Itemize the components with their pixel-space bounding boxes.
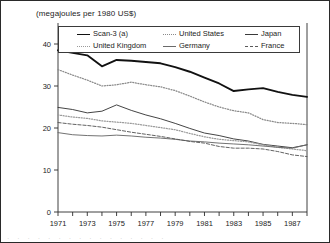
y-tick-label-40: 40	[43, 40, 51, 49]
footer-text: · · · · · · · · · · · · · · · ·	[7, 237, 166, 242]
footer-partial-text: · · · · · · · · · · · · · · · ·	[1, 237, 330, 243]
x-tick-label-1983: 1983	[225, 219, 242, 228]
legend-label: United States	[179, 28, 224, 40]
legend-swatch-icon	[245, 43, 258, 49]
legend-label: France	[261, 40, 284, 52]
legend-label: Germany	[179, 40, 210, 52]
legend-swatch-icon	[245, 31, 258, 37]
y-tick-label-20: 20	[43, 124, 51, 133]
y-tick-label-0: 0	[47, 208, 51, 217]
legend-label: United Kingdom	[93, 40, 146, 52]
chart-legend: Scan-3 (a)United StatesJapan United King…	[58, 26, 300, 53]
x-tick-label-1977: 1977	[138, 219, 155, 228]
legend-swatch-icon	[77, 43, 90, 49]
chart-frame: (megajoules per 1980 US$) 01020304019711…	[0, 0, 330, 243]
legend-item-germany: Germany	[163, 40, 210, 52]
legend-item-france: France	[245, 40, 284, 52]
x-tick-label-1973: 1973	[79, 219, 96, 228]
x-tick-label-1981: 1981	[196, 219, 213, 228]
legend-row-1: Scan-3 (a)United StatesJapan	[59, 28, 301, 40]
x-tick-label-1985: 1985	[255, 219, 272, 228]
x-tick-label-1971: 1971	[50, 219, 67, 228]
legend-swatch-icon	[77, 31, 90, 37]
legend-item-united-kingdom: United Kingdom	[77, 40, 146, 52]
x-tick-label-1987: 1987	[284, 219, 301, 228]
legend-swatch-icon	[163, 43, 176, 49]
legend-item-scan-3-a: Scan-3 (a)	[77, 28, 128, 40]
y-tick-label-10: 10	[43, 166, 51, 175]
x-tick-label-1975: 1975	[108, 219, 125, 228]
legend-item-united-states: United States	[163, 28, 224, 40]
series-line-united-states	[58, 70, 307, 125]
legend-swatch-icon	[163, 31, 176, 37]
legend-label: Japan	[261, 28, 281, 40]
legend-label: Scan-3 (a)	[93, 28, 128, 40]
legend-item-japan: Japan	[245, 28, 281, 40]
series-line-scan-3-a	[58, 50, 307, 97]
x-tick-label-1979: 1979	[167, 219, 184, 228]
series-line-france	[58, 123, 307, 157]
legend-row-2: United KingdomGermanyFrance	[59, 40, 301, 52]
y-tick-label-30: 30	[43, 82, 51, 91]
